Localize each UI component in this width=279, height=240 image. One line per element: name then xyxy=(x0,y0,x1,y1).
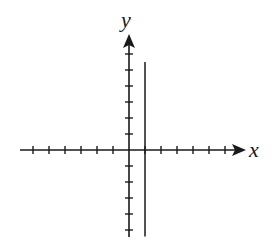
x-axis-label: x xyxy=(248,137,259,162)
coordinate-plane: x y xyxy=(0,0,279,240)
y-axis-label: y xyxy=(119,7,131,32)
